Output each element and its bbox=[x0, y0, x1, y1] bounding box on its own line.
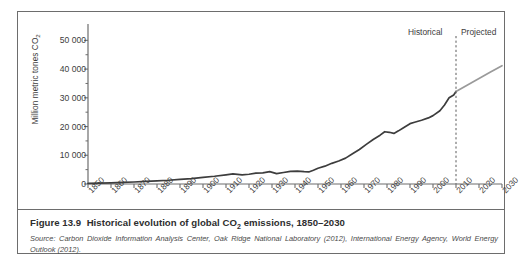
y-axis-tick-label: 40 000 bbox=[60, 64, 86, 74]
source-text: Carbon Dioxide Information Analysis Cent… bbox=[30, 234, 498, 254]
series-line-projected bbox=[456, 66, 502, 92]
source-label: Source: bbox=[30, 234, 55, 243]
caption-divider bbox=[18, 209, 504, 210]
y-axis-tick-label: 30 000 bbox=[60, 93, 86, 103]
figure-caption: Figure 13.9 Historical evolution of glob… bbox=[30, 217, 496, 230]
y-axis-tick-label: 20 000 bbox=[60, 122, 86, 132]
y-axis-tick-labels: 010 00020 00030 00040 00050 000 bbox=[32, 12, 86, 192]
series-line-historical bbox=[88, 92, 456, 184]
co2-emissions-line-chart bbox=[18, 12, 506, 192]
figure-caption-tail: emissions, 1850–2030 bbox=[241, 217, 345, 228]
historical-label: Historical bbox=[408, 27, 442, 37]
projected-label: Projected bbox=[461, 27, 496, 37]
y-axis-tick-label: 50 000 bbox=[60, 35, 86, 45]
figure-container: Million metric tones CO2 010 00020 00030… bbox=[17, 11, 505, 254]
figure-source: Source: Carbon Dioxide Information Analy… bbox=[30, 234, 498, 255]
figure-caption-main: Historical evolution of global CO bbox=[87, 217, 237, 228]
chart-plot-area: Million metric tones CO2 010 00020 00030… bbox=[18, 12, 506, 192]
figure-number: Figure 13.9 bbox=[30, 217, 81, 228]
y-axis-tick-label: 10 000 bbox=[60, 150, 86, 160]
